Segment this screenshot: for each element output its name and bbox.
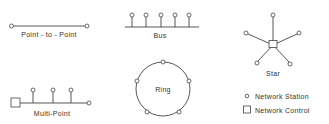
bus-topology: Bus	[125, 13, 199, 39]
network-station-icon	[85, 24, 89, 28]
legend-network-control-label: Network Control	[255, 107, 310, 114]
network-station-icon	[255, 61, 259, 65]
network-station-icon	[177, 110, 181, 114]
point-to-point-label: Point - to - Point	[21, 31, 77, 38]
ring-label: Ring	[155, 86, 171, 94]
network-station-icon	[173, 13, 177, 17]
network-station-icon	[87, 101, 91, 105]
network-station-legend-icon	[245, 94, 249, 98]
network-control-icon	[269, 41, 277, 48]
multi-point-topology: Multi-Point	[11, 88, 91, 117]
network-station-icon	[161, 60, 165, 64]
network-station-icon	[288, 62, 292, 66]
multi-point-label: Multi-Point	[34, 110, 70, 117]
network-station-icon	[244, 31, 248, 35]
network-station-icon	[51, 88, 55, 92]
network-station-icon	[130, 13, 134, 17]
network-station-icon	[69, 88, 73, 92]
bus-label: Bus	[154, 32, 167, 39]
point-to-point-topology: Point - to - Point	[10, 24, 90, 38]
star-label: Star	[266, 70, 280, 77]
network-topologies-diagram: Point - to - Point Bus	[0, 0, 329, 124]
legend: Network Station Network Control	[244, 93, 310, 114]
network-control-legend-icon	[244, 106, 251, 113]
star-topology: Star	[244, 13, 301, 77]
network-station-icon	[187, 79, 191, 83]
network-station-icon	[145, 110, 149, 114]
network-station-icon	[135, 79, 139, 83]
network-station-icon	[297, 31, 301, 35]
network-station-icon	[144, 13, 148, 17]
network-station-icon	[10, 24, 14, 28]
network-station-icon	[159, 13, 163, 17]
network-control-icon	[11, 98, 20, 107]
network-station-icon	[187, 13, 191, 17]
legend-network-station-label: Network Station	[255, 93, 309, 100]
network-station-icon	[31, 88, 35, 92]
ring-topology: Ring	[135, 60, 191, 116]
network-station-icon	[271, 13, 275, 17]
